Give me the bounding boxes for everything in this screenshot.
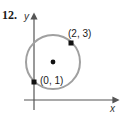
point-0-1 (32, 80, 37, 85)
point-2-3-label: (2, 3) (68, 28, 91, 39)
point-2-3 (69, 41, 74, 46)
problem-number: 12. (2, 8, 17, 22)
center-point (51, 60, 56, 65)
circle-diagram: 12. y x (2, 3) (0, 1) (0, 0, 122, 118)
y-axis-label: y (23, 11, 30, 22)
point-0-1-label: (0, 1) (40, 75, 63, 86)
x-axis-label: x (109, 103, 116, 114)
